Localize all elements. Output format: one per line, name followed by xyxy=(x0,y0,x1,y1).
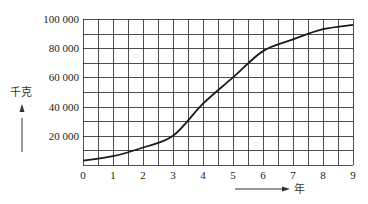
y-tick-label: 20 000 xyxy=(49,130,80,142)
y-axis-ticks: 20 00040 00060 00080 000100 000 xyxy=(43,13,79,142)
x-tick-label: 7 xyxy=(290,169,296,181)
x-tick-label: 1 xyxy=(110,169,116,181)
y-tick-label: 100 000 xyxy=(43,13,79,25)
line-chart: 20 00040 00060 00080 000100 000 01234567… xyxy=(0,0,368,204)
x-axis-label: 年 xyxy=(294,182,305,196)
grid xyxy=(83,19,354,166)
x-tick-label: 9 xyxy=(350,169,356,181)
y-tick-label: 40 000 xyxy=(49,101,80,113)
y-tick-label: 80 000 xyxy=(49,42,80,54)
x-tick-label: 2 xyxy=(140,169,146,181)
x-tick-label: 6 xyxy=(260,169,266,181)
x-tick-label: 5 xyxy=(230,169,236,181)
x-tick-label: 3 xyxy=(170,169,176,181)
x-tick-label: 0 xyxy=(80,169,86,181)
y-axis-label: 千克 xyxy=(10,86,32,99)
x-tick-label: 4 xyxy=(200,169,206,181)
y-tick-label: 60 000 xyxy=(49,71,80,83)
x-axis-ticks: 0123456789 xyxy=(80,169,356,181)
right-arrow-icon xyxy=(235,187,290,192)
up-arrow-icon xyxy=(20,104,25,152)
x-tick-label: 8 xyxy=(320,169,326,181)
